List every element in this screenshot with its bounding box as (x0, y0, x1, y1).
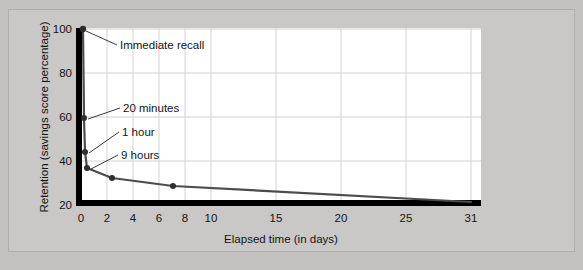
x-axis-title: Elapsed time (in days) (224, 233, 338, 245)
x-tick-label-25: 25 (400, 212, 413, 224)
y-tick-label-40: 40 (59, 155, 72, 167)
data-point-marker (170, 183, 176, 189)
data-point-marker (82, 149, 88, 155)
x-tick-label-8: 8 (182, 212, 188, 224)
y-tick-label-20: 20 (59, 199, 72, 211)
x-tick-label-20: 20 (335, 212, 348, 224)
data-point-marker (81, 115, 87, 121)
annotation-immediate-recall: Immediate recall (120, 39, 204, 51)
y-tick-label-60: 60 (59, 111, 72, 123)
y-tick-label-100: 100 (53, 23, 72, 35)
annotation-1-hour: 1 hour (122, 126, 155, 138)
y-tick-label-80: 80 (59, 67, 72, 79)
chart-canvas: Immediate recall 20 minutes 1 hour 9 hou… (0, 0, 583, 270)
x-tick-label-6: 6 (156, 212, 162, 224)
x-tick-label-15: 15 (270, 212, 283, 224)
x-tick-label-0: 0 (78, 212, 84, 224)
annotation-9-hours: 9 hours (121, 149, 160, 161)
annotation-20-minutes: 20 minutes (123, 102, 180, 114)
data-point-marker (109, 175, 115, 181)
x-tick-label-10: 10 (205, 212, 218, 224)
data-point-marker (80, 26, 86, 32)
x-tick-label-31: 31 (465, 212, 478, 224)
x-axis-bar (76, 200, 481, 206)
y-axis-bar (76, 28, 82, 206)
x-tick-label-2: 2 (104, 212, 110, 224)
y-axis-title: Retention (savings score percentage) (38, 21, 50, 212)
forgetting-curve-figure: Immediate recall 20 minutes 1 hour 9 hou… (0, 0, 583, 270)
data-point-marker (84, 165, 90, 171)
x-tick-label-4: 4 (130, 212, 137, 224)
